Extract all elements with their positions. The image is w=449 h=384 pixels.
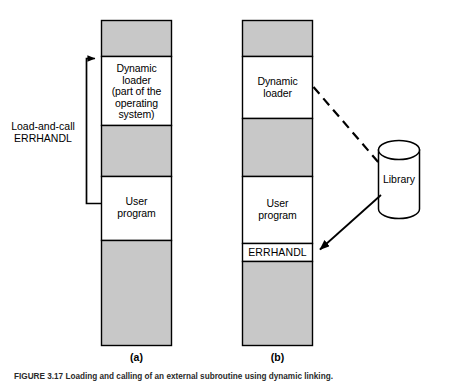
panel-b-block-free-space-bottom — [243, 262, 313, 346]
panel-a-block-free-space-top — [102, 21, 172, 57]
panel-b-block-free-space-top — [243, 21, 313, 57]
panel-b-label-errhandl: ERRHANDL — [242, 246, 313, 258]
panel-b-memory-column — [243, 21, 313, 346]
panel-a-memory-column — [102, 21, 172, 346]
figure-diagram-svg — [0, 0, 449, 384]
library-cylinder-label: Library — [378, 173, 420, 185]
panel-a-caption: (a) — [101, 351, 172, 363]
panel-a-block-user-program — [102, 177, 172, 241]
panel-b-block-user-program — [243, 177, 313, 244]
library-cylinder-top-ellipse — [379, 141, 420, 160]
panel-b-caption: (b) — [242, 351, 313, 363]
panel-a-block-free-space-bottom — [102, 241, 172, 346]
panel-b-block-dynamic-loader — [243, 57, 313, 119]
figure-root: Dynamic loader (part of the operating sy… — [0, 0, 449, 384]
load-and-call-bracket — [87, 59, 102, 204]
figure-caption: FIGURE 3.17 Loading and calling of an ex… — [14, 372, 434, 382]
panel-a-block-dynamic-loader — [102, 57, 172, 126]
panel-a-block-free-space-middle — [102, 126, 172, 177]
loader-to-library-connector — [314, 87, 380, 163]
library-to-errhandl-arrow — [320, 195, 381, 250]
load-and-call-annotation-label: Load-and-call ERRHANDL — [2, 120, 84, 145]
panel-b-block-free-space-middle — [243, 119, 313, 177]
